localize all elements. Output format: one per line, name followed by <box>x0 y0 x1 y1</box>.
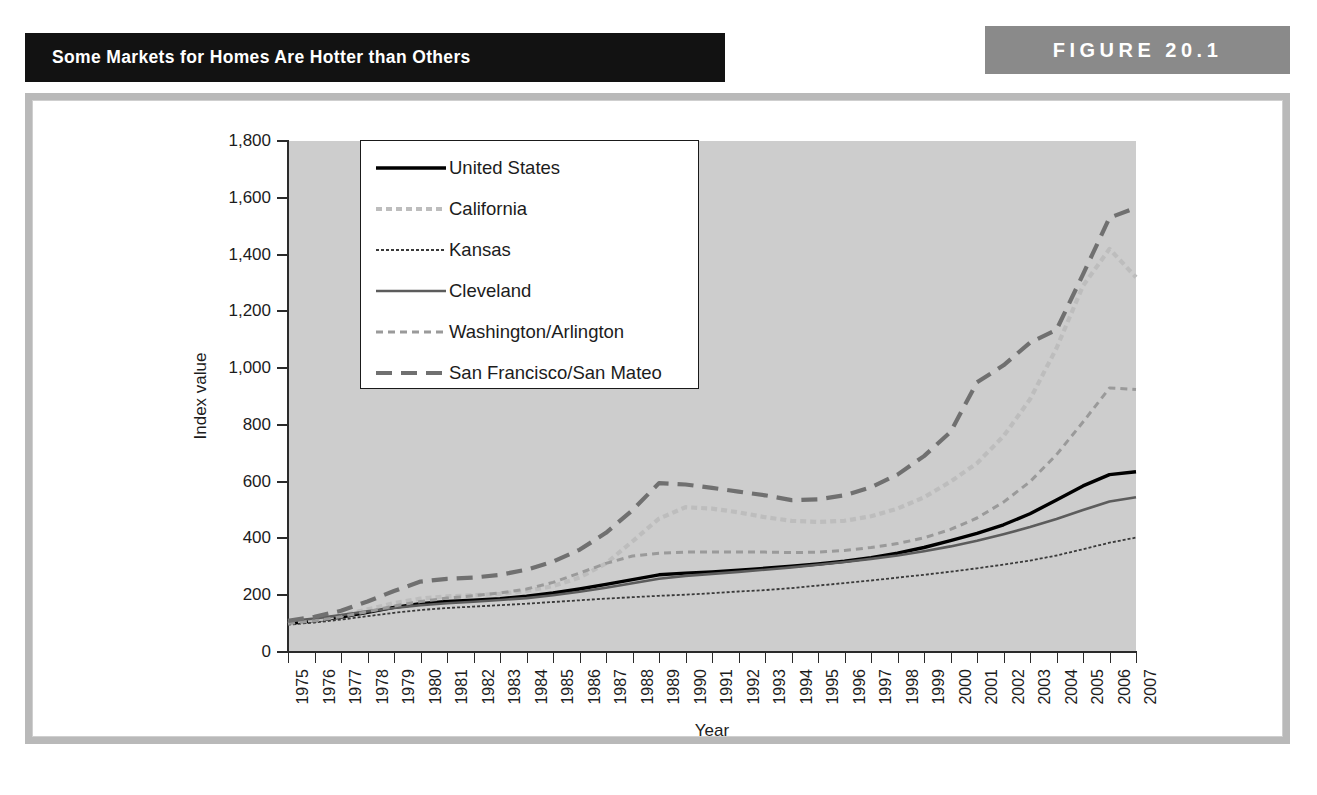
legend-item-label: California <box>449 198 527 220</box>
legend-item[interactable]: United States <box>375 157 560 179</box>
legend-item-label: Cleveland <box>449 280 531 302</box>
legend-item-label: San Francisco/San Mateo <box>449 362 662 384</box>
legend-item-label: United States <box>449 157 560 179</box>
legend-line-swatch <box>375 325 447 339</box>
legend-item[interactable]: California <box>375 198 527 220</box>
legend-item[interactable]: Cleveland <box>375 280 531 302</box>
legend-item-label: Washington/Arlington <box>449 321 624 343</box>
figure-page: Some Markets for Homes Are Hotter than O… <box>0 0 1317 795</box>
legend-item-label: Kansas <box>449 239 511 261</box>
legend-line-swatch <box>375 202 447 216</box>
legend-item[interactable]: Kansas <box>375 239 511 261</box>
figure-title: Some Markets for Homes Are Hotter than O… <box>25 47 471 68</box>
legend-line-swatch <box>375 366 447 380</box>
figure-title-bar: Some Markets for Homes Are Hotter than O… <box>25 33 725 82</box>
figure-number-bar: FIGURE 20.1 <box>985 26 1290 74</box>
legend-item[interactable]: Washington/Arlington <box>375 321 624 343</box>
legend-line-swatch <box>375 161 447 175</box>
figure-number: FIGURE 20.1 <box>1053 39 1223 62</box>
chart-legend[interactable]: United StatesCaliforniaKansasClevelandWa… <box>360 140 699 389</box>
legend-line-swatch <box>375 243 447 257</box>
legend-line-swatch <box>375 284 447 298</box>
legend-item[interactable]: San Francisco/San Mateo <box>375 362 662 384</box>
